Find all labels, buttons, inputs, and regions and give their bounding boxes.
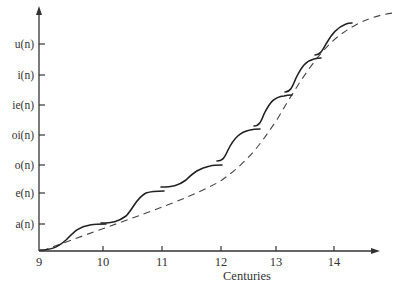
y-tick-label: oi(n) — [12, 129, 35, 142]
x-ticks — [103, 246, 334, 251]
solid-curve — [40, 23, 352, 250]
x-tick-label: 12 — [215, 255, 228, 269]
y-tick-label: i(n) — [17, 69, 34, 82]
x-tick-label: 10 — [97, 255, 110, 269]
x-tick-label: 13 — [270, 255, 283, 269]
x-axis-label: Centuries — [223, 269, 271, 283]
x-tick-label: 14 — [328, 255, 341, 269]
x-tick-label: 11 — [156, 255, 168, 269]
dashed-curve — [42, 13, 393, 251]
y-ticks — [39, 44, 45, 224]
x-axis-arrow-icon — [371, 248, 380, 254]
y-tick-label: o(n) — [15, 159, 34, 172]
y-axis-arrow-icon — [36, 6, 42, 15]
y-tick-label: ie(n) — [12, 99, 34, 112]
y-tick-label: u(n) — [15, 38, 34, 51]
x-tick-labels: 9 10 11 12 13 14 — [36, 255, 341, 269]
y-tick-labels: a(n) e(n) o(n) oi(n) ie(n) i(n) u(n) — [12, 38, 35, 231]
chart: a(n) e(n) o(n) oi(n) ie(n) i(n) u(n) 9 1… — [0, 0, 401, 292]
y-tick-label: a(n) — [15, 218, 34, 231]
y-tick-label: e(n) — [15, 187, 34, 200]
x-tick-label: 9 — [36, 255, 42, 269]
